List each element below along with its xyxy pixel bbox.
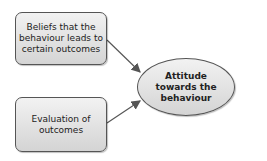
attitude-label: Attitude towards the behaviour <box>154 71 218 104</box>
evaluation-node: Evaluation of outcomes <box>15 97 107 152</box>
arrow-evaluation-to-attitude <box>107 101 140 123</box>
arrow-beliefs-to-attitude <box>107 40 140 72</box>
beliefs-label: Beliefs that the behaviour leads to cert… <box>16 22 106 55</box>
evaluation-label: Evaluation of outcomes <box>30 114 92 136</box>
attitude-node: Attitude towards the behaviour <box>137 58 235 116</box>
beliefs-node: Beliefs that the behaviour leads to cert… <box>15 12 107 65</box>
